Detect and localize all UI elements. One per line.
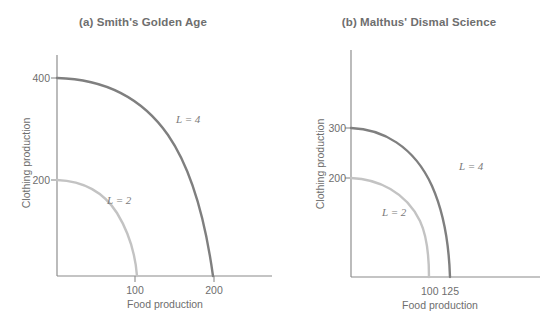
panel-a-curve-label-l2: L = 2: [107, 194, 131, 206]
chart-panel-a: (a) Smith's Golden Age 400 200 100 200 F…: [0, 0, 272, 321]
panel-b-plot: [272, 0, 544, 321]
panel-a-x-axis-title: Food production: [110, 298, 220, 310]
panel-a-y-axis-title: Clothing production: [20, 83, 32, 243]
panel-b-curve-label-l4: L = 4: [459, 160, 483, 172]
panel-a-curve-l4: [57, 78, 213, 276]
panel-b-curve-label-l2: L = 2: [382, 206, 406, 218]
panel-b-y-axis-title: Clothing production: [314, 84, 326, 244]
figure-container: (a) Smith's Golden Age 400 200 100 200 F…: [0, 0, 544, 321]
panel-b-x-axis-title: Food production: [385, 299, 495, 311]
panel-a-xtick-label-200: 200: [194, 284, 234, 296]
panel-b-curve-l2: [351, 178, 429, 277]
panel-a-plot: [0, 0, 272, 321]
panel-a-curve-label-l4: L = 4: [176, 113, 200, 125]
chart-panel-b: (b) Malthus' Dismal Science 300 200 100 …: [272, 0, 544, 321]
panel-a-xtick-label-100: 100: [115, 284, 155, 296]
panel-b-xtick-labels: 100 125: [400, 285, 480, 297]
panel-b-curve-l4: [351, 128, 450, 277]
